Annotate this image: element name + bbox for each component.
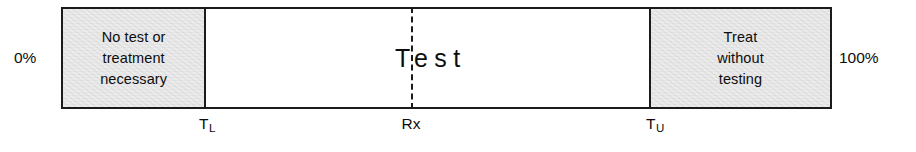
marker-rx-base: Rx <box>402 115 421 132</box>
rx-dashed-marker-line <box>411 7 413 109</box>
marker-upper-threshold-subscript: U <box>656 122 664 134</box>
zone-treat-without-testing-label: Treat without testing <box>713 27 768 90</box>
zone-no-test-or-treatment-label: No test or treatment necessary <box>96 27 171 90</box>
zone-test: Test <box>206 9 651 107</box>
marker-lower-threshold-subscript: L <box>209 122 215 134</box>
marker-label-lower-threshold: TL <box>199 114 215 133</box>
marker-upper-threshold-base: T <box>646 115 655 132</box>
zone-no-test-or-treatment: No test or treatment necessary <box>63 9 206 107</box>
marker-label-rx: Rx <box>402 114 421 133</box>
marker-lower-threshold-base: T <box>199 115 208 132</box>
probability-bar: No test or treatment necessary Test Trea… <box>61 7 832 109</box>
zone-treat-without-testing: Treat without testing <box>651 9 830 107</box>
scale-start-label: 0% <box>14 49 36 67</box>
zone-test-label: Test <box>384 44 470 72</box>
scale-end-label: 100% <box>839 49 879 67</box>
threshold-diagram: 0% No test or treatment necessary Test T… <box>0 0 916 152</box>
marker-label-upper-threshold: TU <box>646 114 664 133</box>
